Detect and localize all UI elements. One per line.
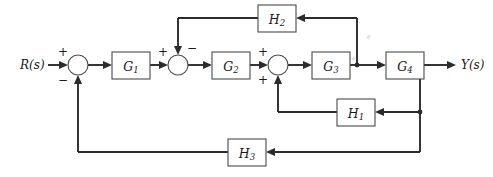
- block-diagram-canvas: G1 G2 G3 G4 H1: [0, 0, 493, 177]
- sum1-sign-minus: −: [58, 73, 68, 87]
- block-g3[interactable]: G3: [312, 52, 350, 79]
- summing-junction-3[interactable]: [268, 55, 288, 75]
- wire-input-to-sum1: [48, 61, 68, 69]
- wire-sum2-to-g2: [188, 61, 212, 69]
- block-h2-sub: 2: [279, 17, 285, 27]
- block-g4-sub: 4: [406, 64, 412, 74]
- node-h1-h3-split: [418, 110, 423, 115]
- input-label-rs: R(s): [19, 58, 45, 72]
- block-g2-sub: 2: [232, 64, 238, 74]
- block-h3[interactable]: H3: [228, 139, 266, 166]
- block-h2[interactable]: H2: [258, 5, 296, 32]
- block-g2-base: G: [223, 58, 233, 73]
- sum2-sign-plus: +: [158, 45, 168, 59]
- block-g4[interactable]: G4: [386, 52, 424, 79]
- sum1-sign-plus: +: [58, 45, 68, 59]
- sum3-sign-plus-bottom: +: [258, 73, 268, 87]
- sum2-sign-minus: −: [187, 41, 197, 55]
- block-g4-base: G: [397, 58, 407, 73]
- wire-g1-to-sum2: [150, 61, 168, 69]
- output-label-ys: Y(s): [461, 58, 485, 72]
- block-g1-sub: 1: [133, 64, 138, 74]
- block-g2[interactable]: G2: [212, 52, 250, 79]
- wire-g2-to-sum3: [250, 61, 268, 69]
- block-g1[interactable]: G1: [112, 52, 150, 79]
- block-g1-base: G: [123, 58, 133, 73]
- wire-sum1-to-g1: [88, 61, 112, 69]
- sum3-sign-plus-left: +: [258, 45, 268, 59]
- scan-artifact-1: ✦: [349, 54, 357, 64]
- wire-g4-to-output: [424, 61, 456, 69]
- wire-sum3-to-g3: [288, 61, 312, 69]
- block-h1-sub: 1: [359, 111, 364, 121]
- block-g3-sub: 3: [333, 64, 338, 74]
- block-g3-base: G: [323, 58, 333, 73]
- block-h3-sub: 3: [250, 151, 255, 161]
- summing-junction-1[interactable]: [68, 55, 88, 75]
- summing-junction-2[interactable]: [168, 55, 188, 75]
- scan-artifact-2: ✦: [362, 31, 374, 44]
- block-diagram-svg: G1 G2 G3 G4 H1: [0, 0, 493, 177]
- block-h1[interactable]: H1: [337, 99, 375, 126]
